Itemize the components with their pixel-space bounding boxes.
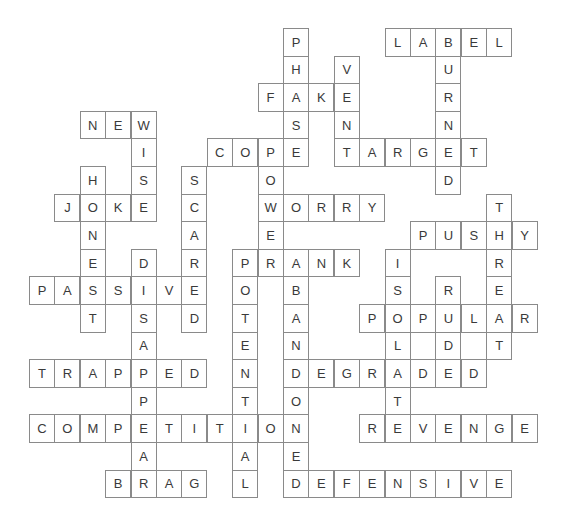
crossword-cell[interactable]: O — [258, 414, 284, 443]
crossword-cell[interactable]: E — [131, 414, 157, 443]
crossword-cell[interactable]: I — [435, 470, 461, 499]
crossword-cell[interactable]: C — [181, 194, 207, 223]
crossword-cell[interactable]: S — [385, 276, 411, 305]
crossword-cell[interactable]: R — [258, 249, 284, 278]
crossword-cell[interactable]: E — [283, 442, 309, 471]
crossword-cell[interactable]: P — [359, 304, 385, 333]
crossword-cell[interactable]: O — [54, 414, 80, 443]
crossword-cell[interactable]: H — [486, 221, 512, 250]
crossword-cell[interactable]: N — [334, 111, 360, 140]
crossword-cell[interactable]: I — [131, 138, 157, 167]
crossword-cell[interactable]: L — [232, 470, 258, 499]
crossword-cell[interactable]: R — [385, 138, 411, 167]
crossword-cell[interactable]: K — [105, 194, 131, 223]
crossword-cell[interactable]: D — [131, 249, 157, 278]
crossword-cell[interactable]: T — [29, 359, 55, 388]
crossword-cell[interactable]: E — [105, 111, 131, 140]
crossword-cell[interactable]: T — [207, 414, 233, 443]
crossword-cell[interactable]: B — [105, 470, 131, 499]
crossword-cell[interactable]: D — [461, 359, 487, 388]
crossword-cell[interactable]: A — [156, 470, 182, 499]
crossword-cell[interactable]: N — [283, 332, 309, 361]
crossword-cell[interactable]: P — [232, 249, 258, 278]
crossword-cell[interactable]: A — [283, 249, 309, 278]
crossword-cell[interactable]: R — [359, 359, 385, 388]
crossword-cell[interactable]: E — [486, 470, 512, 499]
crossword-cell[interactable]: R — [435, 276, 461, 305]
crossword-cell[interactable]: O — [232, 276, 258, 305]
crossword-cell[interactable]: N — [283, 414, 309, 443]
crossword-cell[interactable]: O — [283, 194, 309, 223]
crossword-cell[interactable]: M — [80, 414, 106, 443]
crossword-cell[interactable]: A — [131, 442, 157, 471]
crossword-cell[interactable]: E — [232, 332, 258, 361]
crossword-cell[interactable]: T — [156, 414, 182, 443]
crossword-cell[interactable]: E — [131, 194, 157, 223]
crossword-cell[interactable]: T — [385, 387, 411, 416]
crossword-cell[interactable]: E — [486, 276, 512, 305]
crossword-cell[interactable]: S — [410, 470, 436, 499]
crossword-cell[interactable]: E — [512, 414, 538, 443]
crossword-cell[interactable]: T — [461, 138, 487, 167]
crossword-cell[interactable]: R — [512, 304, 538, 333]
crossword-cell[interactable]: S — [283, 111, 309, 140]
crossword-cell[interactable]: U — [435, 56, 461, 85]
crossword-cell[interactable]: Y — [359, 194, 385, 223]
crossword-cell[interactable]: E — [283, 138, 309, 167]
crossword-cell[interactable]: N — [385, 470, 411, 499]
crossword-cell[interactable]: H — [283, 56, 309, 85]
crossword-cell[interactable]: S — [131, 304, 157, 333]
crossword-cell[interactable]: E — [156, 359, 182, 388]
crossword-cell[interactable]: U — [435, 221, 461, 250]
crossword-cell[interactable]: L — [486, 28, 512, 57]
crossword-cell[interactable]: A — [80, 359, 106, 388]
crossword-cell[interactable]: E — [308, 359, 334, 388]
crossword-cell[interactable]: B — [435, 28, 461, 57]
crossword-cell[interactable]: D — [435, 166, 461, 195]
crossword-cell[interactable]: L — [385, 28, 411, 57]
crossword-cell[interactable]: N — [435, 111, 461, 140]
crossword-cell[interactable]: N — [308, 249, 334, 278]
crossword-cell[interactable]: L — [461, 304, 487, 333]
crossword-cell[interactable]: D — [181, 304, 207, 333]
crossword-cell[interactable]: E — [435, 138, 461, 167]
crossword-cell[interactable]: R — [308, 194, 334, 223]
crossword-cell[interactable]: P — [131, 387, 157, 416]
crossword-cell[interactable]: R — [435, 83, 461, 112]
crossword-cell[interactable]: A — [410, 28, 436, 57]
crossword-cell[interactable]: P — [105, 414, 131, 443]
crossword-cell[interactable]: O — [385, 304, 411, 333]
crossword-cell[interactable]: T — [334, 138, 360, 167]
crossword-cell[interactable]: N — [232, 359, 258, 388]
crossword-cell[interactable]: T — [232, 304, 258, 333]
crossword-cell[interactable]: P — [29, 276, 55, 305]
crossword-cell[interactable]: F — [334, 470, 360, 499]
crossword-cell[interactable]: A — [385, 359, 411, 388]
crossword-cell[interactable]: G — [334, 359, 360, 388]
crossword-cell[interactable]: E — [80, 249, 106, 278]
crossword-cell[interactable]: V — [461, 470, 487, 499]
crossword-cell[interactable]: V — [334, 56, 360, 85]
crossword-cell[interactable]: S — [80, 276, 106, 305]
crossword-cell[interactable]: S — [181, 166, 207, 195]
crossword-cell[interactable]: R — [359, 414, 385, 443]
crossword-cell[interactable]: P — [258, 138, 284, 167]
crossword-cell[interactable]: N — [80, 111, 106, 140]
crossword-cell[interactable]: D — [181, 359, 207, 388]
crossword-cell[interactable]: P — [283, 28, 309, 57]
crossword-cell[interactable]: F — [258, 83, 284, 112]
crossword-cell[interactable]: W — [258, 194, 284, 223]
crossword-cell[interactable]: G — [181, 470, 207, 499]
crossword-cell[interactable]: A — [232, 442, 258, 471]
crossword-cell[interactable]: B — [283, 276, 309, 305]
crossword-cell[interactable]: A — [283, 83, 309, 112]
crossword-cell[interactable]: H — [80, 166, 106, 195]
crossword-cell[interactable]: P — [410, 304, 436, 333]
crossword-cell[interactable]: T — [486, 194, 512, 223]
crossword-cell[interactable]: E — [308, 470, 334, 499]
crossword-cell[interactable]: W — [131, 111, 157, 140]
crossword-cell[interactable]: I — [181, 414, 207, 443]
crossword-cell[interactable]: R — [181, 249, 207, 278]
crossword-cell[interactable]: T — [486, 332, 512, 361]
crossword-cell[interactable]: O — [258, 166, 284, 195]
